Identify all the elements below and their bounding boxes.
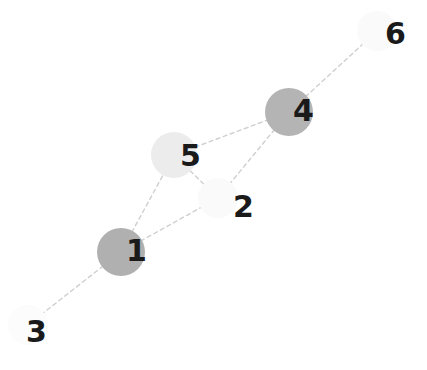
edge-layer <box>28 31 377 325</box>
graph-svg-layer <box>0 0 427 370</box>
network-graph-canvas: 123456 <box>0 0 427 370</box>
graph-node-2[interactable] <box>198 178 238 218</box>
graph-node-label-3: 3 <box>26 317 47 347</box>
graph-node-label-6: 6 <box>385 19 406 49</box>
graph-node-label-2: 2 <box>233 192 254 222</box>
graph-node-label-1: 1 <box>126 236 147 266</box>
graph-node-label-5: 5 <box>180 141 201 171</box>
graph-node-label-4: 4 <box>293 96 314 126</box>
